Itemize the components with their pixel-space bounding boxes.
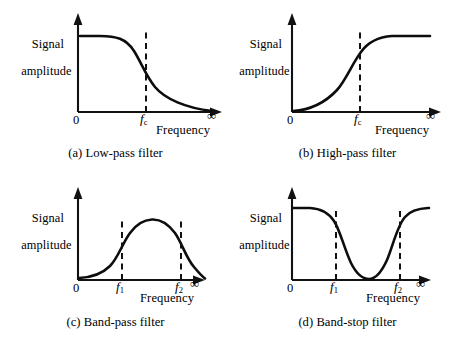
y-axis-label-line1: Signal [250, 211, 282, 225]
y-axis-label: Signal amplitude [220, 199, 282, 266]
band-pass-curve [79, 219, 205, 278]
x-tick-infinity: ∞ [207, 110, 216, 124]
y-axis-arrow-icon [74, 13, 83, 25]
x-tick-zero: 0 [287, 114, 293, 128]
y-axis-label-line1: Signal [32, 37, 64, 51]
panel-low-pass: Signal amplitude 0 fc ∞ Frequency (a) Lo… [0, 0, 231, 175]
y-axis-arrow-icon [74, 187, 83, 199]
x-tick-zero: 0 [73, 114, 79, 128]
x-tick-f1: f1 [330, 280, 338, 295]
x-tick-infinity: ∞ [426, 110, 435, 124]
y-axis-label-line2: amplitude [21, 238, 71, 252]
x-axis-label: Frequency [375, 124, 429, 138]
x-tick-zero: 0 [73, 282, 79, 296]
band-stop-curve [293, 208, 429, 279]
y-axis-label-line2: amplitude [21, 64, 71, 78]
high-pass-curve [293, 36, 430, 111]
x-axis-label: Frequency [140, 292, 194, 306]
y-axis-label-line2: amplitude [239, 64, 289, 78]
y-axis-label: Signal amplitude [2, 25, 64, 92]
x-tick-zero: 0 [287, 282, 293, 296]
y-axis-label-line1: Signal [32, 211, 64, 225]
x-tick-cutoff: fc [140, 112, 148, 127]
panel-caption-a: (a) Low-pass filter [0, 146, 231, 161]
x-axis-label: Frequency [366, 292, 420, 306]
panel-high-pass: Signal amplitude 0 fc ∞ Frequency (b) Hi… [232, 0, 463, 175]
x-tick-infinity: ∞ [416, 278, 425, 292]
panel-band-pass: Signal amplitude 0 f1 f2 ∞ Frequency (c)… [0, 176, 231, 351]
x-axis-label: Frequency [156, 124, 210, 138]
y-axis-label-line2: amplitude [239, 238, 289, 252]
y-axis-label-line1: Signal [250, 37, 282, 51]
y-axis-label: Signal amplitude [220, 25, 282, 92]
y-axis-arrow-icon [288, 13, 297, 25]
x-tick-f1: f1 [116, 280, 124, 295]
panel-caption-d: (d) Band-stop filter [232, 315, 463, 330]
y-axis-label: Signal amplitude [2, 199, 64, 266]
panel-caption-c: (c) Band-pass filter [0, 315, 231, 330]
x-tick-infinity: ∞ [190, 278, 199, 292]
panel-caption-b: (b) High-pass filter [232, 146, 463, 161]
filter-response-figure: Signal amplitude 0 fc ∞ Frequency (a) Lo… [0, 0, 463, 351]
panel-band-stop: Signal amplitude 0 f1 f2 ∞ Frequency (d)… [232, 176, 463, 351]
y-axis-arrow-icon [288, 187, 297, 199]
x-tick-cutoff: fc [354, 112, 362, 127]
